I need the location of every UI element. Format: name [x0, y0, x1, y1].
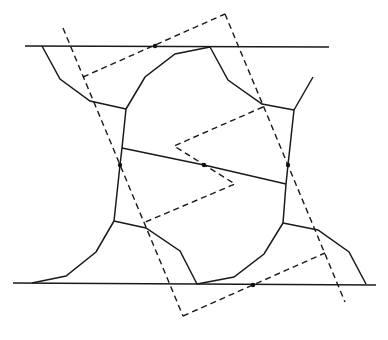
lower-left-curve: [32, 221, 114, 283]
upper-right-branch: [294, 77, 313, 110]
central-bottom-arc: [114, 221, 197, 284]
central-bottom-right-arc: [197, 223, 283, 284]
diagram-canvas: [0, 0, 388, 340]
bottom-line-dot: [251, 283, 255, 287]
dashed-right-side: [225, 14, 345, 302]
left-vertical-dot: [118, 163, 122, 167]
central-top-arc: [126, 47, 210, 109]
upper-right-curve: [210, 47, 294, 110]
boundary-lines: [13, 46, 376, 285]
bottom-boundary-line: [13, 283, 376, 285]
right-vertical-dot: [286, 163, 290, 167]
top-line-dot: [153, 44, 157, 48]
center-dot: [202, 163, 206, 167]
dashed-left-side: [63, 28, 183, 316]
solid-curves: [32, 46, 366, 284]
